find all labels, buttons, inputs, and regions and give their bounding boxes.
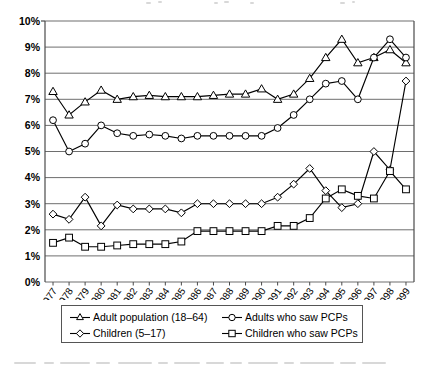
data-point-diamond [49,210,57,218]
data-point-square [130,241,137,248]
data-point-circle [354,96,361,103]
y-axis-tick-label: 0% [25,276,41,288]
legend-row: Children (5–17) Children who saw PCPs [70,325,362,341]
y-axis-tick-label: 6% [25,119,41,131]
data-point-circle [194,132,201,139]
y-axis-tick-label: 10% [19,15,41,27]
data-point-triangle [97,86,105,93]
data-point-square [226,228,233,235]
data-point-triangle [145,91,153,98]
series-line [53,171,406,247]
y-axis-tick-label: 5% [25,145,41,157]
data-point-triangle [338,35,346,42]
data-point-circle [242,132,249,139]
y-axis-tick-label: 7% [25,93,41,105]
scan-artifact [158,362,168,364]
data-point-diamond [354,200,362,208]
data-point-circle [50,117,57,124]
data-point-diamond [177,209,185,217]
data-point-circle [290,112,297,119]
scan-artifact [230,362,242,364]
data-point-square [290,222,297,229]
data-point-circle [210,132,217,139]
data-point-diamond [81,193,89,201]
page-scan-artifact-bottom [0,356,424,367]
legend-entry-children-saw-pcps: Children who saw PCPs [222,328,358,339]
data-point-diamond [161,205,169,213]
scan-artifact [96,362,110,364]
square-marker-icon [222,328,242,339]
data-point-circle [370,54,377,61]
data-point-square [66,234,73,241]
data-point-square [114,242,121,249]
data-point-circle [258,132,265,139]
scan-artifact [14,362,36,364]
data-point-square [210,228,217,235]
data-point-square [274,222,281,229]
data-point-square [322,195,329,202]
data-point-square [162,241,169,248]
scan-artifact [44,362,54,364]
data-point-square [387,168,394,175]
data-point-circle [274,125,281,132]
data-point-triangle [257,85,265,92]
scan-artifact [118,362,152,364]
data-point-circle [178,135,185,142]
data-point-triangle [49,87,57,94]
circle-marker-icon [222,312,242,323]
series-line [53,39,406,115]
scan-artifact [284,362,294,364]
data-point-circle [82,140,89,147]
data-point-diamond [210,200,218,208]
y-axis-tick-label: 4% [25,171,41,183]
x-axis-tick-label: 1977 [37,285,59,300]
triangle-marker-icon [70,312,90,323]
data-point-diamond [65,215,73,223]
chart-legend: Adult population (18–64) Adults who saw … [61,305,363,343]
data-point-triangle [386,46,394,53]
data-point-diamond [242,200,250,208]
data-point-diamond [145,205,153,213]
data-point-square [98,243,105,250]
data-point-square [338,186,345,193]
data-point-circle [226,132,233,139]
y-axis-tick-label: 2% [25,224,41,236]
y-axis-tick-label: 3% [25,198,41,210]
legend-label: Adults who saw PCPs [245,312,348,323]
data-point-square [50,239,57,246]
scan-artifact [248,362,278,364]
data-point-square [194,228,201,235]
data-point-square [146,241,153,248]
legend-row: Adult population (18–64) Adults who saw … [70,309,362,325]
data-point-square [82,243,89,250]
data-point-diamond [226,200,234,208]
data-point-circle [130,132,137,139]
data-point-circle [146,131,153,138]
data-point-circle [114,130,121,137]
scan-artifact [60,362,90,364]
scan-artifact [340,362,356,364]
diamond-marker-icon [70,328,90,339]
legend-entry-adults-saw-pcps: Adults who saw PCPs [222,312,348,323]
data-point-circle [338,78,345,85]
data-point-circle [403,54,410,61]
legend-entry-children: Children (5–17) [70,328,222,339]
data-point-circle [387,36,394,43]
scan-artifact [362,362,386,364]
data-point-square [258,228,265,235]
data-point-square [354,192,361,199]
y-axis-tick-label: 9% [25,41,41,53]
data-point-circle [322,80,329,87]
legend-label: Children who saw PCPs [245,328,358,339]
data-point-square [178,238,185,245]
legend-label: Children (5–17) [93,328,165,339]
scan-artifact [174,362,200,364]
data-point-square [370,195,377,202]
data-point-circle [98,122,105,129]
data-point-circle [66,148,73,155]
plot-area: 0%1%2%3%4%5%6%7%8%9%10%19771978197919801… [0,0,424,300]
y-axis-tick-label: 1% [25,250,41,262]
data-point-square [306,215,313,222]
data-point-circle [306,96,313,103]
scan-artifact [300,362,334,364]
